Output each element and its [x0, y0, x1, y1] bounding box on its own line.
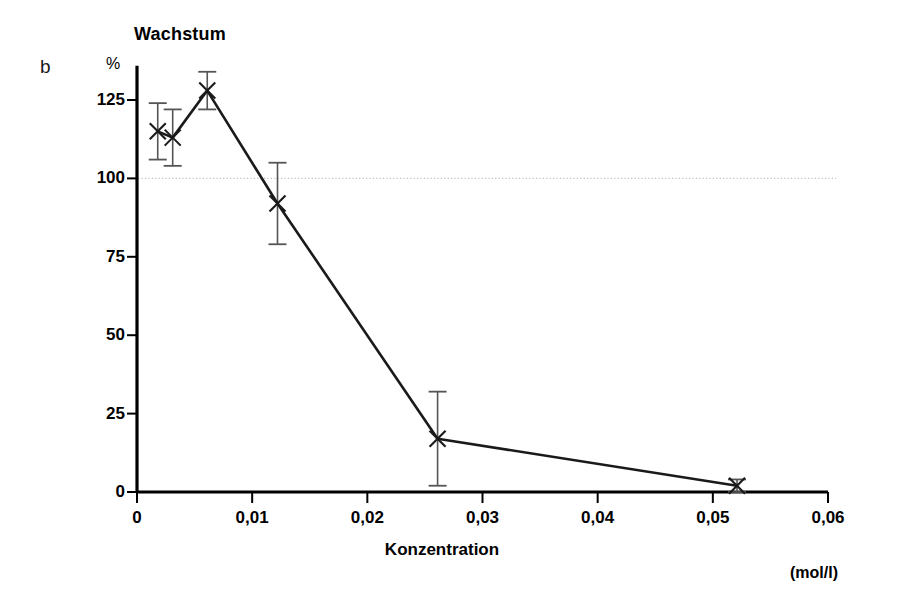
x-tick-label: 0,03 — [448, 508, 518, 528]
y-tick-label: 75 — [65, 247, 125, 267]
y-tick-label: 125 — [65, 90, 125, 110]
data-line-layer — [158, 91, 737, 486]
x-tick-label: 0,01 — [217, 508, 287, 528]
data-markers-layer — [150, 83, 745, 494]
axes-layer — [137, 66, 828, 492]
x-tick-label: 0 — [102, 508, 172, 528]
y-tick-label: 25 — [65, 404, 125, 424]
y-tick-label: 50 — [65, 325, 125, 345]
x-axis-unit-label: (mol/l) — [790, 564, 838, 582]
x-tick-label: 0,05 — [678, 508, 748, 528]
x-tick-label: 0,06 — [793, 508, 863, 528]
data-series-line — [158, 91, 737, 486]
y-tick-label: 100 — [65, 168, 125, 188]
y-axis-tick-labels: 0255075100125 — [55, 0, 125, 591]
error-bars-layer — [149, 72, 746, 492]
tick-marks-layer — [127, 100, 828, 503]
figure-panel: b Wachstum % 0255075100125 00,010,020,03… — [0, 0, 898, 591]
x-tick-label: 0,02 — [332, 508, 402, 528]
x-axis-title: Konzentration — [312, 540, 572, 560]
chart-canvas — [0, 0, 898, 591]
x-tick-label: 0,04 — [563, 508, 633, 528]
y-tick-label: 0 — [65, 482, 125, 502]
